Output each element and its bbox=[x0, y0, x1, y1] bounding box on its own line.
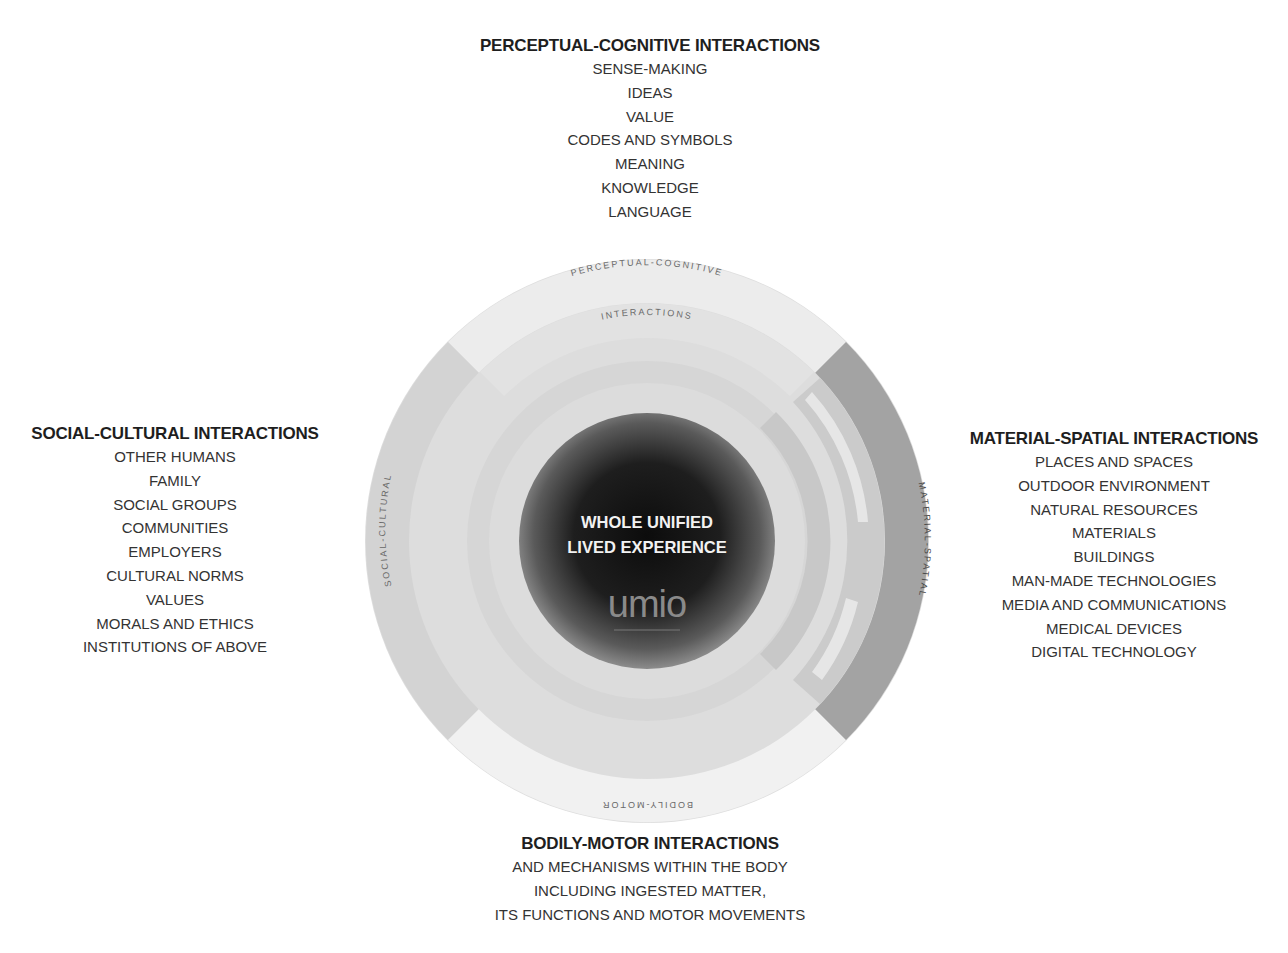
list-item: VALUE bbox=[400, 105, 900, 129]
list-item: MEANING bbox=[400, 152, 900, 176]
list-item: EMPLOYERS bbox=[0, 540, 350, 564]
material-spatial-block: MATERIAL-SPATIAL INTERACTIONS PLACES AND… bbox=[940, 428, 1288, 664]
bodily-motor-block: BODILY-MOTOR INTERACTIONS AND MECHANISMS… bbox=[400, 833, 900, 927]
bodily-motor-title: BODILY-MOTOR INTERACTIONS bbox=[400, 833, 900, 855]
umio-logo: umio bbox=[587, 585, 707, 623]
list-item: MAN-MADE TECHNOLOGIES bbox=[940, 569, 1288, 593]
list-item: SENSE-MAKING bbox=[400, 57, 900, 81]
list-item: COMMUNITIES bbox=[0, 516, 350, 540]
list-item: AND MECHANISMS WITHIN THE BODY bbox=[400, 855, 900, 879]
list-item: ITS FUNCTIONS AND MOTOR MOVEMENTS bbox=[400, 903, 900, 927]
list-item: OUTDOOR ENVIRONMENT bbox=[940, 474, 1288, 498]
material-spatial-title: MATERIAL-SPATIAL INTERACTIONS bbox=[940, 428, 1288, 450]
social-cultural-title: SOCIAL-CULTURAL INTERACTIONS bbox=[0, 423, 350, 445]
list-item: MORALS AND ETHICS bbox=[0, 612, 350, 636]
umio-logo-tagline bbox=[614, 629, 680, 631]
center-label: WHOLE UNIFIED LIVED EXPERIENCE bbox=[527, 510, 767, 560]
list-item: NATURAL RESOURCES bbox=[940, 498, 1288, 522]
list-item: FAMILY bbox=[0, 469, 350, 493]
list-item: MEDICAL DEVICES bbox=[940, 617, 1288, 641]
list-item: CULTURAL NORMS bbox=[0, 564, 350, 588]
ring-label-bodily-motor: BODILY-MOTOR bbox=[601, 800, 693, 810]
list-item: PLACES AND SPACES bbox=[940, 450, 1288, 474]
list-item: SOCIAL GROUPS bbox=[0, 493, 350, 517]
perceptual-cognitive-block: PERCEPTUAL-COGNITIVE INTERACTIONS SENSE-… bbox=[400, 61, 900, 224]
list-item: INCLUDING INGESTED MATTER, bbox=[400, 879, 900, 903]
center-label-line2: LIVED EXPERIENCE bbox=[527, 535, 767, 560]
social-cultural-block: SOCIAL-CULTURAL INTERACTIONS OTHER HUMAN… bbox=[0, 423, 350, 659]
perceptual-cognitive-title: PERCEPTUAL-COGNITIVE INTERACTIONS bbox=[400, 35, 900, 57]
list-item: IDEAS bbox=[400, 81, 900, 105]
list-item: DIGITAL TECHNOLOGY bbox=[940, 640, 1288, 664]
list-item: CODES AND SYMBOLS bbox=[400, 128, 900, 152]
center-label-line1: WHOLE UNIFIED bbox=[527, 510, 767, 535]
list-item: KNOWLEDGE bbox=[400, 176, 900, 200]
list-item: MATERIALS bbox=[940, 521, 1288, 545]
list-item: VALUES bbox=[0, 588, 350, 612]
list-item: LANGUAGE bbox=[400, 200, 900, 224]
list-item: MEDIA AND COMMUNICATIONS bbox=[940, 593, 1288, 617]
list-item: OTHER HUMANS bbox=[0, 445, 350, 469]
list-item: INSTITUTIONS OF ABOVE bbox=[0, 635, 350, 659]
list-item: BUILDINGS bbox=[940, 545, 1288, 569]
